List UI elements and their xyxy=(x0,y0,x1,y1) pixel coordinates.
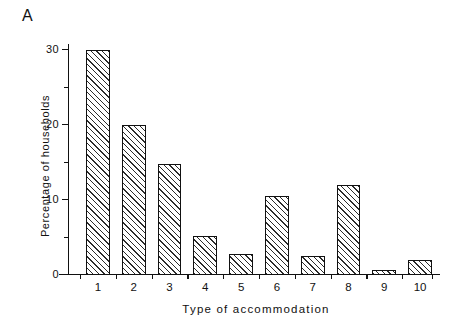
x-tick-label-9: 9 xyxy=(381,282,387,294)
x-tick-label-4: 4 xyxy=(202,282,208,294)
bar-1 xyxy=(86,50,110,275)
panel-letter-label: A xyxy=(22,8,33,24)
x-tick-2 xyxy=(116,274,117,279)
bar-3 xyxy=(158,164,182,275)
y-axis-line xyxy=(68,44,69,275)
y-tick-0 xyxy=(62,274,68,275)
x-tick-label-8: 8 xyxy=(345,282,351,294)
bar-5 xyxy=(229,254,253,275)
x-tick-4 xyxy=(187,274,188,279)
x-tick-10 xyxy=(402,274,403,279)
x-tick-5 xyxy=(223,274,224,279)
bar-4 xyxy=(193,236,217,275)
x-tick-label-5: 5 xyxy=(238,282,244,294)
x-tick-9 xyxy=(366,274,367,279)
plot-area: 0102030 12345678910 xyxy=(68,44,440,276)
y-tick-label-20: 20 xyxy=(46,119,59,130)
bar-9 xyxy=(372,270,396,275)
y-tick-30 xyxy=(62,49,68,50)
y-tick-20 xyxy=(62,124,68,125)
x-tick-end xyxy=(432,274,433,279)
y-tick-label-30: 30 xyxy=(46,44,59,55)
x-tick-label-10: 10 xyxy=(414,282,427,294)
figure-panel-a: A Percentage of households Type of accom… xyxy=(0,0,453,327)
x-tick-1 xyxy=(80,274,81,279)
bar-8 xyxy=(337,185,361,275)
y-tick-label-0: 0 xyxy=(52,269,59,280)
x-tick-7 xyxy=(295,274,296,279)
bar-6 xyxy=(265,196,289,275)
x-axis-title: Type of accommodation xyxy=(70,303,442,315)
bar-7 xyxy=(301,256,325,275)
x-tick-8 xyxy=(331,274,332,279)
y-tick-minor-5 xyxy=(64,237,68,238)
x-tick-6 xyxy=(259,274,260,279)
x-tick-label-3: 3 xyxy=(166,282,172,294)
x-tick-label-6: 6 xyxy=(274,282,280,294)
x-tick-label-7: 7 xyxy=(309,282,315,294)
x-tick-3 xyxy=(152,274,153,279)
x-tick-label-2: 2 xyxy=(130,282,136,294)
x-tick-label-1: 1 xyxy=(95,282,101,294)
y-tick-minor-15 xyxy=(64,162,68,163)
y-tick-minor-25 xyxy=(64,87,68,88)
y-tick-label-10: 10 xyxy=(46,194,59,205)
bar-10 xyxy=(408,260,432,275)
bar-2 xyxy=(122,125,146,275)
y-tick-10 xyxy=(62,199,68,200)
y-axis-title: Percentage of households xyxy=(39,51,51,281)
